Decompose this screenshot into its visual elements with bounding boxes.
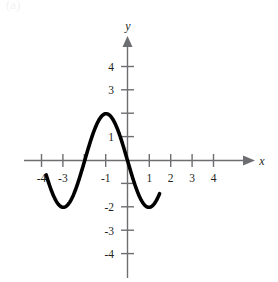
y-tick-label: 4	[108, 61, 114, 73]
coordinate-plane-svg: -4 -3 -1 1 2 3 4 4 3 1 -2 -3 -4 x y	[0, 0, 278, 282]
x-tick-label: 1	[146, 172, 152, 184]
graph-figure: (a)	[0, 0, 278, 282]
figure-label: (a)	[6, 0, 20, 10]
y-tick-label: 1	[108, 131, 114, 143]
y-axis-label: y	[124, 19, 131, 33]
y-tick-label: -2	[104, 201, 114, 213]
y-tick-label: -3	[104, 225, 114, 237]
x-axis-label: x	[258, 154, 265, 168]
x-tick-label: 3	[189, 172, 195, 184]
x-axis-tick-labels: -4 -3 -1 1 2 3 4	[37, 172, 217, 184]
x-tick-label: -1	[101, 172, 111, 184]
x-tick-label: 4	[211, 172, 217, 184]
x-tick-label: -3	[58, 172, 68, 184]
x-axis	[24, 156, 255, 166]
y-tick-label: 3	[108, 84, 114, 96]
y-tick-label: -4	[104, 248, 114, 260]
x-tick-label: 2	[168, 172, 174, 184]
